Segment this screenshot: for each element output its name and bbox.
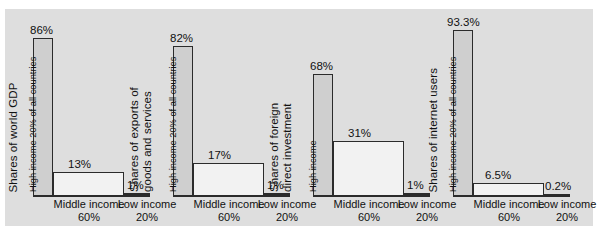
bar-inner-label: High income 20% of all countries <box>448 57 458 192</box>
chart-group-fdi: Shares of foreign direct investment High… <box>285 9 432 226</box>
bar-high-income: High income 20% of all countries <box>453 30 473 196</box>
xtick-line1: Low income <box>532 198 597 211</box>
baseline-axis <box>313 195 430 197</box>
baseline-axis <box>33 195 150 197</box>
bar-middle-income <box>193 163 264 196</box>
baseline-axis <box>173 195 290 197</box>
baseline-axis <box>453 195 570 197</box>
bar-high-income: High income 20% of all countries <box>173 46 193 196</box>
bar-value-label-high: 86% <box>30 24 53 36</box>
bar-value-label-high: 68% <box>310 60 333 72</box>
bar-inner-label: High income 20% of all countries <box>28 57 38 192</box>
bar-value-label-middle: 13% <box>68 158 91 170</box>
bar-inner-label: High income 20% of all countries <box>168 57 178 192</box>
bar-middle-income <box>333 141 404 196</box>
xtick-line2: 20% <box>532 211 597 224</box>
group-title-line: Shares of foreign <box>268 103 281 192</box>
group-title-line: Shares of world GDP <box>7 82 20 192</box>
bar-value-label-high: 93.3% <box>447 16 480 28</box>
bar-value-label-middle: 6.5% <box>485 169 511 181</box>
bar-value-label-high: 82% <box>170 32 193 44</box>
group-title-line: direct investment <box>281 103 294 192</box>
xtick-low-income: Low income 20% <box>532 198 597 223</box>
chart-group-internet-users: Shares of internet users High income 20%… <box>425 9 593 226</box>
group-title-fdi: Shares of foreign direct investment <box>268 103 293 192</box>
bar-value-label-middle: 31% <box>348 127 371 139</box>
chart-panel: Shares of world GDP High income 20% of a… <box>5 9 593 226</box>
chart-figure: Shares of world GDP High income 20% of a… <box>0 0 597 233</box>
group-title-exports: Shares of exports of goods and services <box>128 87 153 192</box>
group-title-world-gdp: Shares of world GDP <box>7 82 20 192</box>
bar-high-income: High income <box>313 74 333 196</box>
bar-value-label-low: 1% <box>407 179 424 191</box>
bar-inner-label: High income <box>308 140 318 192</box>
bar-middle-income <box>473 183 544 196</box>
bar-value-label-low: 0.2% <box>545 180 571 192</box>
bar-value-label-middle: 17% <box>208 149 231 161</box>
group-title-internet-users: Shares of internet users <box>427 68 440 193</box>
bar-middle-income <box>53 172 124 196</box>
group-title-line: Shares of internet users <box>427 68 440 193</box>
group-title-line: Shares of exports of <box>128 87 141 192</box>
group-title-line: goods and services <box>141 87 154 192</box>
bar-high-income: High income 20% of all countries <box>33 38 53 196</box>
